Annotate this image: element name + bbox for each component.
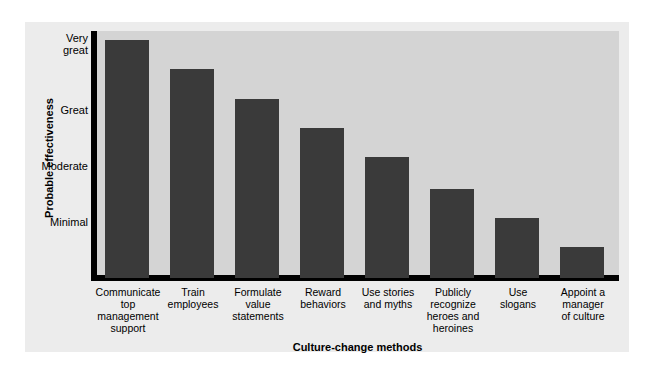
y-tick-label-moderate: Moderate — [2, 160, 88, 172]
x-tick-line: heroines — [410, 322, 496, 334]
bar-series — [96, 31, 619, 278]
x-tick-line: management — [85, 310, 171, 322]
y-tick-line: Great — [2, 104, 88, 116]
bar-train-employees — [170, 69, 214, 278]
x-tick-line: Appoint a — [540, 286, 626, 298]
bar-publicly-recognize-heroes — [430, 189, 474, 278]
x-tick-line: support — [85, 322, 171, 334]
chart-figure: Probable effectiveness Very great Great … — [0, 0, 652, 374]
bar-use-stories-and-myths — [365, 157, 409, 278]
x-tick-label-appoint-a-manager-of-culture: Appoint a manager of culture — [540, 286, 626, 322]
y-tick-line: Minimal — [2, 216, 88, 228]
x-tick-line: heroes and — [410, 310, 496, 322]
x-tick-line: manager — [540, 298, 626, 310]
x-axis-tick-labels: Communicate top management support Train… — [96, 286, 619, 346]
y-axis-tick-labels: Very great Great Moderate Minimal — [0, 0, 88, 374]
y-tick-line: great — [2, 44, 88, 56]
bar-use-slogans — [495, 218, 539, 278]
bar-formulate-value-statements — [235, 99, 279, 278]
y-tick-label-very-great: Very great — [2, 32, 88, 56]
y-tick-line: Very — [2, 32, 88, 44]
bar-communicate-top-management-support — [105, 40, 149, 278]
y-tick-label-great: Great — [2, 104, 88, 116]
y-tick-line: Moderate — [2, 160, 88, 172]
bar-reward-behaviors — [300, 128, 344, 278]
bar-appoint-a-manager-of-culture — [560, 247, 604, 278]
y-tick-label-minimal: Minimal — [2, 216, 88, 228]
x-axis-title: Culture-change methods — [96, 341, 619, 353]
x-tick-line: of culture — [540, 310, 626, 322]
x-tick-line: statements — [215, 310, 301, 322]
